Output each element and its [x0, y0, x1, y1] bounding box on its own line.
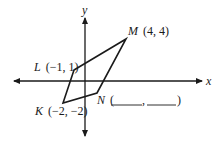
y-axis-label: y	[81, 3, 88, 17]
vertex-label-l: L (−1, 1)	[33, 60, 78, 74]
x-axis-label: x	[205, 74, 212, 88]
n-comma: ,	[142, 93, 145, 107]
vertex-label-k: K (−2, −2)	[34, 104, 88, 118]
n-close-paren: )	[177, 93, 181, 107]
vertex-label-n: N ( , )	[96, 93, 181, 107]
vertex-label-m: M (4, 4)	[127, 24, 169, 38]
coordinate-plane: x y M (4, 4) L (−1, 1) K (−2, −2) N ( , …	[0, 0, 223, 147]
